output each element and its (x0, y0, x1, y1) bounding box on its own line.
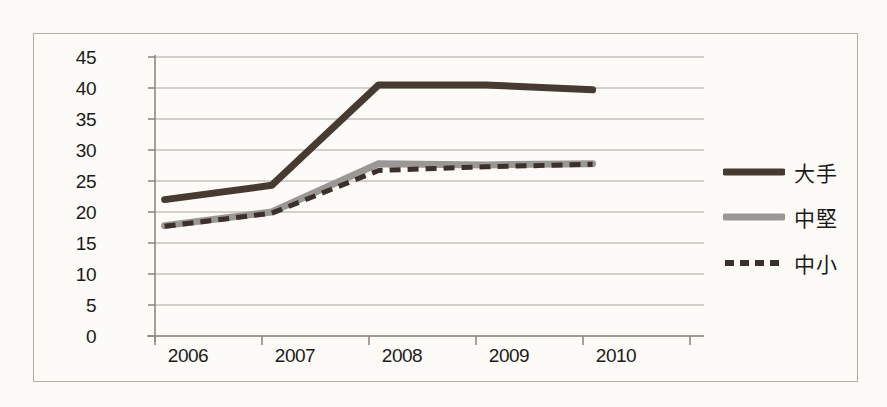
series-line-2 (165, 164, 593, 226)
ytick-label-25: 25 (50, 171, 96, 193)
legend-label-1: 中堅 (794, 202, 838, 232)
xtick-label-2008: 2008 (347, 345, 457, 367)
legend-swatch-0 (723, 168, 785, 176)
ytick-label-30: 30 (50, 140, 96, 162)
legend-label-2: 中小 (794, 248, 838, 278)
series-line-0 (165, 85, 593, 200)
data-series-group (165, 85, 593, 226)
legend-item-2[interactable]: 中小 (723, 248, 838, 278)
ytick-label-45: 45 (50, 47, 96, 69)
xtick-label-2007: 2007 (240, 345, 350, 367)
ytick-label-15: 15 (50, 233, 96, 255)
ytick-label-0: 0 (50, 326, 96, 348)
xtick-label-2010: 2010 (561, 345, 671, 367)
axes-group (147, 55, 704, 345)
legend-swatch-1 (723, 213, 785, 221)
legend-label-0: 大手 (794, 157, 838, 187)
legend-swatch-2 (723, 259, 785, 267)
xtick-label-2006: 2006 (133, 345, 243, 367)
ytick-label-35: 35 (50, 109, 96, 131)
ytick-label-10: 10 (50, 264, 96, 286)
ytick-label-40: 40 (50, 78, 96, 100)
xtick-label-2009: 2009 (454, 345, 564, 367)
ytick-label-5: 5 (50, 295, 96, 317)
legend-item-1[interactable]: 中堅 (723, 202, 838, 232)
chart-screenshot: 45 40 35 30 25 20 15 10 5 0 2006 2007 20… (0, 0, 887, 407)
gridlines-group (155, 57, 704, 336)
ytick-label-20: 20 (50, 202, 96, 224)
legend-item-0[interactable]: 大手 (723, 157, 838, 187)
